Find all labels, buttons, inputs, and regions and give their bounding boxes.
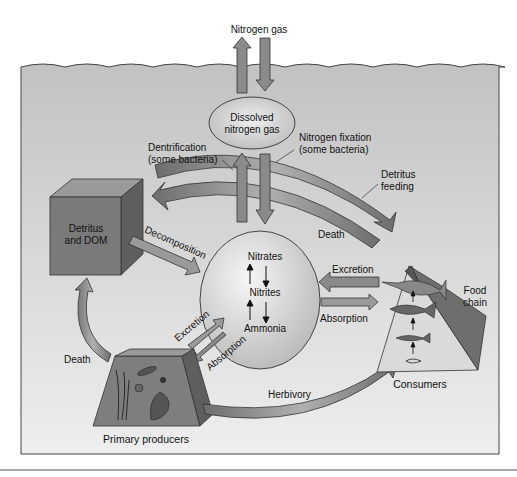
- primary-producers-label: Primary producers: [103, 433, 189, 445]
- consumers-label: Consumers: [393, 378, 447, 390]
- food-chain-label-2: chain: [463, 297, 487, 308]
- dissolved-nitrogen-ellipse: [209, 97, 295, 149]
- fixation-label-2: (some bacteria): [299, 144, 368, 155]
- nitrites-label: Nitrites: [249, 287, 280, 298]
- nitrogen-cycle-diagram: Nitrogen gas Dissolved nitrogen gas Dent…: [0, 0, 517, 477]
- absorption-consumers-label: Absorption: [320, 313, 368, 324]
- nitrates-label: Nitrates: [248, 251, 282, 262]
- detritus-feeding-label-1: Detritus: [381, 169, 415, 180]
- coccolith-icon: [135, 384, 143, 392]
- herbivory-label: Herbivory: [268, 389, 311, 400]
- food-chain-label-1: Food: [464, 285, 487, 296]
- dissolved-label-2: nitrogen gas: [224, 124, 279, 135]
- dentrification-label-2: (some bacteria): [148, 154, 217, 165]
- nitrogen-gas-label: Nitrogen gas: [231, 24, 288, 35]
- ammonia-label: Ammonia: [244, 323, 287, 334]
- detritus-label-2: and DOM: [65, 235, 108, 246]
- detritus-label-1: Detritus: [69, 223, 103, 234]
- dinoflagellate-icon: [160, 377, 166, 383]
- dissolved-label-1: Dissolved: [230, 112, 273, 123]
- dentrification-label-1: Dentrification: [148, 142, 206, 153]
- detritus-feeding-label-2: feeding: [381, 181, 414, 192]
- death-producers-label: Death: [64, 354, 91, 365]
- excretion-consumers-label: Excretion: [332, 264, 374, 275]
- death-consumers-label: Death: [318, 229, 345, 240]
- fixation-label-1: Nitrogen fixation: [299, 132, 371, 143]
